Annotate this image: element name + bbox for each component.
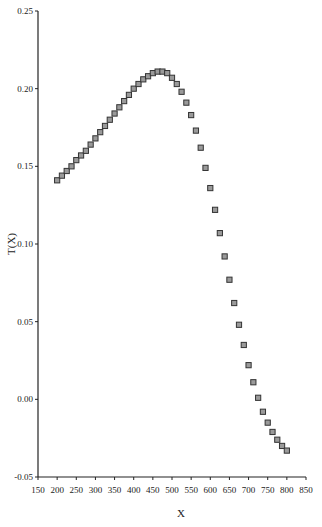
data-point-marker [256,395,261,400]
x-tick-label: 600 [204,485,218,495]
data-point-marker [241,342,246,347]
data-point-marker [98,130,103,135]
data-point-marker [203,165,208,170]
x-tick-label: 350 [108,485,122,495]
x-tick-label: 250 [70,485,84,495]
data-point-marker [126,92,131,97]
data-point-marker [193,128,198,133]
data-point-marker [217,231,222,236]
data-point-marker [222,254,227,259]
y-tick-label: 0.05 [17,317,33,327]
x-tick-label: 750 [261,485,275,495]
x-tick-label: 500 [165,485,179,495]
data-point-marker [246,363,251,368]
data-point-marker [179,89,184,94]
data-point-marker [88,142,93,147]
y-tick-label: -0.05 [14,472,33,482]
data-point-marker [198,145,203,150]
data-point-marker [69,164,74,169]
x-tick-label: 450 [146,485,160,495]
data-point-marker [227,277,232,282]
data-point-marker [112,111,117,116]
x-tick-label: 200 [50,485,64,495]
data-point-marker [212,207,217,212]
scatter-chart: -0.050.000.050.100.150.200.2515020025030… [0,0,322,527]
data-point-marker [265,420,270,425]
data-point-marker [251,380,256,385]
x-tick-label: 700 [242,485,256,495]
data-point-marker [208,185,213,190]
data-point-marker [169,75,174,80]
data-points [55,69,290,453]
data-point-marker [174,81,179,86]
y-tick-label: 0.10 [17,239,33,249]
y-tick-label: 0.00 [17,394,33,404]
x-tick-label: 650 [223,485,237,495]
y-tick-label: 0.15 [17,161,33,171]
data-point-marker [117,105,122,110]
data-point-marker [184,100,189,105]
data-point-marker [122,98,127,103]
data-point-marker [270,429,275,434]
x-tick-label: 400 [127,485,141,495]
data-point-marker [260,409,265,414]
data-point-marker [232,300,237,305]
data-point-marker [102,123,107,128]
data-point-marker [284,448,289,453]
y-axis-title: T(X) [5,233,18,255]
data-point-marker [189,112,194,117]
x-tick-label: 800 [280,485,294,495]
data-point-marker [107,117,112,122]
y-tick-label: 0.20 [17,84,33,94]
data-point-marker [93,136,98,141]
data-point-marker [275,437,280,442]
data-point-marker [83,148,88,153]
x-tick-label: 300 [89,485,103,495]
x-tick-label: 550 [184,485,198,495]
data-point-marker [236,322,241,327]
y-tick-label: 0.25 [17,6,33,16]
x-tick-label: 850 [299,485,313,495]
x-tick-label: 150 [31,485,45,495]
x-axis-title: X [177,507,185,519]
